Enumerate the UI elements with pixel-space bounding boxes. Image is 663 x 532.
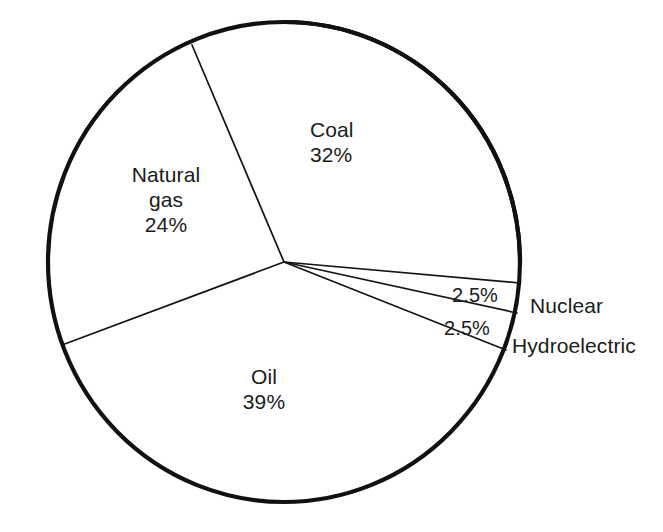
slice-label-oil-name: Oil [204,365,324,390]
slice-label-oil-percent: 39% [204,390,324,415]
slice-label-coal-percent: 32% [310,143,354,168]
slice-label-nuclear-name: Nuclear [530,294,603,319]
slice-label-coal: Coal 32% [310,118,354,168]
pie-chart-graphic [0,0,663,532]
slice-label-oil: Oil 39% [204,365,324,415]
pie-chart: Coal 32% Natural gas 24% Oil 39% 2.5% 2.… [0,0,663,532]
slice-label-hydroelectric-percent: 2.5% [444,317,490,341]
slice-label-hydroelectric-name: Hydroelectric [512,334,636,359]
slice-label-coal-name: Coal [310,118,354,143]
slice-label-natural-gas-name-line2: gas [106,188,226,213]
slice-label-nuclear-percent: 2.5% [452,284,498,308]
slice-label-natural-gas-percent: 24% [106,213,226,238]
slice-label-natural-gas: Natural gas 24% [106,163,226,237]
slice-label-natural-gas-name-line1: Natural [106,163,226,188]
